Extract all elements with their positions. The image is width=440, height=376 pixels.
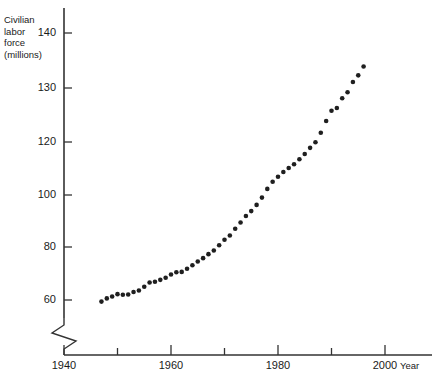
x-axis-title: Year xyxy=(400,360,419,371)
data-point xyxy=(158,278,163,283)
y-tick-marks xyxy=(64,33,72,300)
data-point xyxy=(217,243,222,248)
data-point xyxy=(244,214,249,219)
data-point xyxy=(228,233,233,238)
data-point xyxy=(270,179,275,184)
data-point xyxy=(169,272,174,277)
data-point xyxy=(222,237,227,242)
data-point xyxy=(163,275,168,280)
data-point xyxy=(137,288,142,293)
axes-group xyxy=(52,8,432,355)
data-point xyxy=(105,296,110,301)
data-point xyxy=(340,96,345,101)
data-point xyxy=(308,146,313,151)
x-tick-label: 2000 xyxy=(365,359,405,371)
data-point xyxy=(99,299,104,304)
data-point xyxy=(292,162,297,167)
x-tick-label: 1980 xyxy=(258,359,298,371)
y-tick-label: 100 xyxy=(22,188,56,200)
y-tick-label: 80 xyxy=(22,240,56,252)
data-point xyxy=(249,209,254,214)
data-point xyxy=(351,80,356,85)
data-point xyxy=(110,294,115,299)
data-point xyxy=(356,73,361,78)
data-point xyxy=(260,195,265,200)
data-point xyxy=(201,256,206,261)
data-point xyxy=(212,248,217,253)
data-point xyxy=(195,259,200,264)
data-point xyxy=(126,292,131,297)
x-tick-label: 1960 xyxy=(151,359,191,371)
data-point xyxy=(254,203,259,208)
data-point xyxy=(319,131,324,136)
data-point xyxy=(147,280,152,285)
data-point xyxy=(190,263,195,268)
data-point xyxy=(329,108,334,113)
y-tick-label: 130 xyxy=(22,81,56,93)
data-point xyxy=(286,166,291,171)
data-point-group xyxy=(99,64,366,304)
data-point xyxy=(179,270,184,275)
data-point xyxy=(345,90,350,95)
data-point xyxy=(276,174,281,179)
data-point xyxy=(302,152,307,157)
data-point xyxy=(174,270,179,275)
data-point xyxy=(324,119,329,124)
data-point xyxy=(265,187,270,192)
data-point xyxy=(335,106,340,111)
y-tick-label: 120 xyxy=(22,135,56,147)
data-point xyxy=(297,157,302,162)
data-point xyxy=(238,220,243,225)
x-tick-marks xyxy=(64,345,385,355)
data-point xyxy=(131,290,136,295)
x-tick-label: 1940 xyxy=(44,359,84,371)
data-point xyxy=(185,266,190,271)
data-point xyxy=(153,279,158,284)
data-point xyxy=(121,292,126,297)
data-point xyxy=(281,170,286,175)
data-point xyxy=(233,227,238,232)
chart-figure: Civilian labor force (millions) 60801001… xyxy=(0,0,440,376)
y-tick-label: 60 xyxy=(22,293,56,305)
y-tick-label: 140 xyxy=(22,26,56,38)
data-point xyxy=(142,284,147,289)
chart-plot-area xyxy=(0,0,440,376)
data-point xyxy=(313,140,318,145)
data-point xyxy=(361,64,366,69)
data-point xyxy=(206,252,211,257)
data-point xyxy=(115,292,120,297)
